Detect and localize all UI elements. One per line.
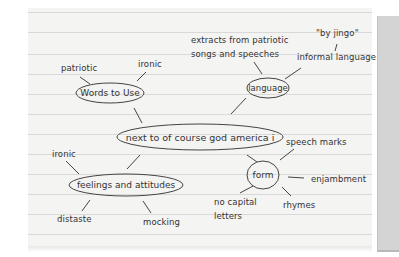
language-node: language — [248, 83, 288, 93]
language-child-by-jingo: "by jingo" — [316, 28, 359, 38]
words-child-patriotic: patriotic — [61, 63, 97, 73]
words-node: Words to Use — [80, 88, 139, 98]
language-child-extracts: extracts from patriotic — [191, 35, 288, 45]
feelings-node: feelings and attitudes — [77, 180, 175, 190]
form-child-letters: letters — [214, 211, 242, 221]
form-child-speech-marks: speech marks — [286, 137, 347, 147]
feelings-child-ironic: ironic — [52, 149, 76, 159]
words-child-ironic: ironic — [138, 59, 162, 69]
form-child-enjambment: enjambment — [311, 174, 366, 184]
language-child-informal: informal language — [297, 52, 376, 62]
feelings-child-distaste: distaste — [57, 214, 92, 224]
form-child-rhymes: rhymes — [283, 200, 315, 210]
central-node: next to of course god america i — [126, 132, 275, 143]
feelings-child-mocking: mocking — [143, 217, 180, 227]
form-node: form — [253, 170, 274, 180]
language-child-songs: songs and speeches — [191, 49, 279, 59]
form-child-no-capital: no capital — [214, 197, 257, 207]
